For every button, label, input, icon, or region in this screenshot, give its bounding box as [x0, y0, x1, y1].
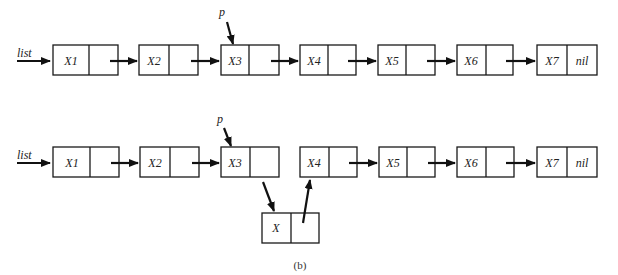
node-info: X1 — [63, 54, 77, 68]
top-list-head-label: list — [17, 46, 32, 60]
bottom-list-head-label: list — [17, 148, 32, 162]
node-info: X1 — [64, 156, 78, 170]
top-node-x1: X1 — [53, 45, 118, 75]
node-info: X6 — [463, 54, 477, 68]
bottom-node-x5: X5 — [379, 147, 435, 177]
top-node-x7: X7 nil — [537, 45, 597, 75]
bottom-node-x1: X1 — [53, 147, 119, 177]
bottom-pointer-p-label: p — [216, 112, 223, 126]
bottom-node-x3: X3 — [221, 147, 279, 177]
bottom-node-x7: X7 nil — [537, 147, 597, 177]
top-pointer-p-label: p — [218, 5, 225, 19]
nil-label: nil — [576, 156, 589, 170]
nil-label: nil — [576, 54, 589, 68]
bottom-node-x6: X6 — [457, 147, 514, 177]
node-info: X2 — [146, 54, 160, 68]
node-info: X3 — [227, 156, 241, 170]
node-info: X5 — [385, 156, 399, 170]
node-info: X4 — [306, 54, 320, 68]
top-list: list p X1 X2 X3 X4 — [17, 5, 597, 75]
figure-caption: (b) — [294, 259, 307, 272]
bottom-pointer-p-arrow — [224, 128, 231, 146]
inserted-node-x: X — [262, 213, 319, 243]
x3-to-x-arrow — [263, 182, 274, 211]
node-info: X7 — [544, 54, 559, 68]
node-info: X7 — [544, 156, 559, 170]
linked-list-diagram: list p X1 X2 X3 X4 — [0, 0, 618, 275]
top-node-x2: X2 — [139, 45, 198, 75]
bottom-list: list p X1 X2 X3 X4 — [17, 112, 597, 243]
top-node-x5: X5 — [378, 45, 435, 75]
top-node-x4: X4 — [300, 45, 356, 75]
node-info: X3 — [227, 54, 241, 68]
node-info: X2 — [147, 156, 161, 170]
top-node-x6: X6 — [457, 45, 513, 75]
top-pointer-p-arrow — [227, 22, 233, 44]
top-node-x3: X3 — [221, 45, 279, 75]
node-info: X — [271, 221, 280, 235]
node-info: X4 — [306, 156, 320, 170]
bottom-node-x4: X4 — [300, 147, 357, 177]
bottom-node-x2: X2 — [140, 147, 199, 177]
node-info: X6 — [463, 156, 477, 170]
node-info: X5 — [384, 54, 398, 68]
